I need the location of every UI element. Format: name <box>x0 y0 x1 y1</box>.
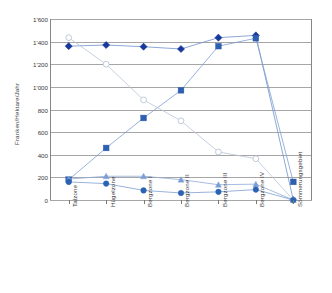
y-axis-tick-label: 1'000 <box>33 83 48 90</box>
plot-area <box>50 19 312 200</box>
x-axis-tickmark <box>293 200 294 204</box>
data-point-marker <box>103 61 109 67</box>
data-point-marker <box>216 149 222 155</box>
data-point-marker <box>66 35 72 41</box>
y-axis-tick-label: 1'200 <box>33 61 48 68</box>
chart-container: Franken/Hektare/Jahr 02004006008001'0001… <box>0 0 332 293</box>
data-point-marker <box>177 45 184 52</box>
y-axis-tick-label: 400 <box>38 151 48 158</box>
data-point-marker <box>253 35 259 41</box>
y-axis-tick-label: 1'600 <box>33 16 48 23</box>
data-point-marker <box>141 97 147 103</box>
x-axis-tickmark <box>106 200 107 204</box>
data-point-marker <box>141 115 147 121</box>
x-axis-tickmark <box>181 200 182 204</box>
data-point-marker <box>65 43 72 50</box>
data-point-marker <box>103 41 110 48</box>
data-point-marker <box>140 43 147 50</box>
x-axis-tickmark <box>218 200 219 204</box>
data-point-marker <box>178 118 184 124</box>
x-axis-tick-label: Bergzone III <box>221 172 228 207</box>
x-axis-tick-label: Sömmerungsgebiet <box>296 152 303 207</box>
data-point-marker <box>66 179 72 185</box>
data-point-marker <box>253 156 259 162</box>
data-point-marker <box>178 87 184 93</box>
y-axis-title: Franken/Hektare/Jahr <box>13 0 20 54</box>
data-point-marker <box>103 145 109 151</box>
y-axis-tick-label: 0 <box>45 197 48 204</box>
data-point-marker <box>215 34 222 41</box>
series-square <box>66 35 296 184</box>
series-layer <box>50 19 312 200</box>
y-axis-tick-label: 200 <box>38 174 48 181</box>
y-axis-title-label: Franken/Hektare/Jahr <box>13 54 20 174</box>
x-axis-tick-label: Bergzone II <box>183 174 190 207</box>
x-axis-tickmark <box>69 200 70 204</box>
x-axis-tickmark <box>256 200 257 204</box>
x-axis-tickmark <box>144 200 145 204</box>
y-axis-tick-label: 600 <box>38 129 48 136</box>
y-axis-tick-label: 1'400 <box>33 38 48 45</box>
x-axis-tick-label: Talzone <box>71 185 78 207</box>
data-point-marker <box>216 43 222 49</box>
y-axis-tick-label: 800 <box>38 106 48 113</box>
x-axis-tick-label: Bergzone I <box>146 176 153 207</box>
x-axis-tick-label: Bergzone IV <box>258 172 265 207</box>
y-axis-tick-labels: 02004006008001'0001'2001'4001'600 <box>22 0 48 293</box>
x-axis-tick-label: Hügelzone <box>109 177 116 207</box>
